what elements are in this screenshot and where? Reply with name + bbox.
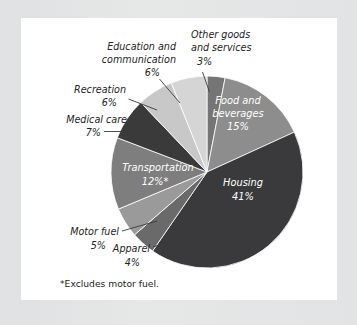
label-housing: Housing (223, 177, 263, 188)
value-recreation: 6% (102, 97, 117, 108)
label-apparel: Apparel (112, 243, 150, 254)
value-education: 6% (145, 67, 160, 78)
value-apparel: 4% (125, 257, 140, 268)
label-food-and-beverages-line1: Food and (215, 95, 261, 106)
label-education-line1: Education and (107, 41, 177, 52)
label-education-line2: communication (102, 54, 176, 65)
pie-chart: Other goods and services 3% Education an… (0, 0, 357, 325)
label-motor-fuel: Motor fuel (70, 226, 119, 237)
value-medical-care: 7% (86, 127, 101, 138)
value-housing: 41% (232, 191, 254, 202)
label-recreation: Recreation (74, 84, 126, 95)
label-other-goods-line2: and services (191, 42, 251, 53)
label-food-and-beverages-line2: beverages (212, 108, 263, 119)
value-other-goods: 3% (197, 56, 212, 67)
label-transportation: Transportation (122, 162, 193, 173)
value-food-and-beverages: 15% (227, 121, 249, 132)
label-medical-care: Medical care (66, 114, 127, 125)
value-transportation: 12%* (142, 176, 169, 187)
label-other-goods-line1: Other goods (191, 29, 250, 40)
footnote: *Excludes motor fuel. (60, 278, 159, 289)
value-motor-fuel: 5% (91, 240, 106, 251)
